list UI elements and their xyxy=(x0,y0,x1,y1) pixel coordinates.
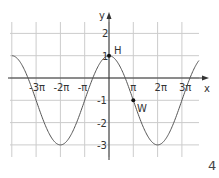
point-h-label: H xyxy=(114,45,122,56)
x-tick-label: -2π xyxy=(53,82,69,93)
y-axis-arrow-icon xyxy=(107,12,112,19)
y-tick-label: -1 xyxy=(97,95,107,106)
chart: xy-3π-2π-ππ2π3π-3-2-112HW 4 xyxy=(0,0,219,178)
y-axis-label: y xyxy=(99,10,105,21)
page-number: 4 xyxy=(208,158,216,173)
x-axis-label: x xyxy=(204,83,210,94)
y-tick-label: -3 xyxy=(97,140,107,151)
x-axis-arrow-icon xyxy=(202,76,209,81)
point-w-label: W xyxy=(137,103,147,114)
x-tick-label: π xyxy=(130,82,136,93)
point-h xyxy=(107,54,111,58)
x-tick-label: -π xyxy=(78,82,88,93)
y-tick-label: 2 xyxy=(102,28,108,39)
point-w xyxy=(131,98,135,102)
cosine-plot: xy-3π-2π-ππ2π3π-3-2-112HW xyxy=(0,0,219,178)
x-tick-label: 2π xyxy=(155,82,167,93)
y-tick-label: -2 xyxy=(97,118,107,129)
